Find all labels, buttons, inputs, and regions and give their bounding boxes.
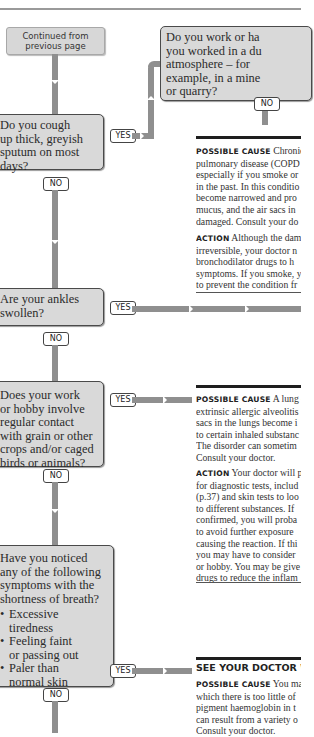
result-rule — [196, 136, 301, 139]
flow-connector — [52, 190, 58, 288]
result-end-rule — [196, 292, 301, 293]
symptom-item: Paler thannormal skin — [0, 662, 108, 689]
question-grain: Does your work or hobby involve regular … — [0, 381, 104, 467]
question-ankles: Are your ankles swollen? — [0, 288, 104, 326]
flow-connector — [132, 668, 192, 674]
flow-connector — [132, 306, 301, 312]
no-label[interactable]: NO — [254, 97, 280, 111]
chevron-down-icon — [51, 80, 59, 84]
symptom-list: Excessivetiredness Feeling faintor passi… — [0, 608, 108, 689]
flow-connector — [52, 482, 58, 545]
no-label[interactable]: NO — [43, 688, 69, 702]
chevron-right-icon — [245, 305, 249, 313]
question-dusty: Do you work or ha you worked in a du atm… — [160, 26, 312, 101]
result-end-rule — [196, 582, 301, 583]
no-label[interactable]: NO — [43, 469, 69, 483]
result-rule — [196, 657, 301, 660]
flow-connector — [52, 54, 58, 114]
flow-connector — [148, 62, 154, 139]
chevron-down-icon — [51, 509, 59, 513]
symptom-item: Excessivetiredness — [0, 608, 108, 635]
question-symptoms: Have you noticed any of the following sy… — [0, 545, 114, 687]
continued-from-previous-page[interactable]: Continued from previous page — [6, 27, 105, 55]
flow-connector — [262, 111, 268, 125]
top-rule — [0, 8, 301, 10]
chevron-right-icon — [163, 396, 167, 404]
symptom-item: Feeling faintor passing out — [0, 635, 108, 662]
no-label[interactable]: NO — [43, 332, 69, 346]
chevron-right-icon — [163, 667, 167, 675]
result-copd-action: Action Although the dam irreversible, yo… — [196, 232, 301, 291]
see-doctor-heading: SEE YOUR DOCTOR W — [196, 662, 301, 673]
no-label[interactable]: NO — [43, 177, 69, 191]
question-sputum: Do you cough up thick, greyish sputum on… — [0, 114, 104, 170]
chevron-right-icon — [140, 132, 144, 140]
result-copd-cause: Possible cause Chronic o pulmonary disea… — [196, 145, 301, 227]
chevron-up-icon — [147, 96, 155, 100]
chevron-down-icon — [51, 240, 59, 244]
flow-connector — [52, 345, 58, 381]
result-anaemia-cause: Possible cause You may which there is to… — [196, 678, 301, 737]
flow-connector — [52, 701, 58, 733]
chevron-right-icon — [189, 305, 193, 313]
result-alveolitis-action: Action Your doctor will p for diagnostic… — [196, 467, 301, 584]
result-rule — [196, 385, 301, 388]
result-alveolitis-cause: Possible cause A lung dis extrinsic alle… — [196, 393, 301, 464]
flow-connector — [132, 397, 192, 403]
